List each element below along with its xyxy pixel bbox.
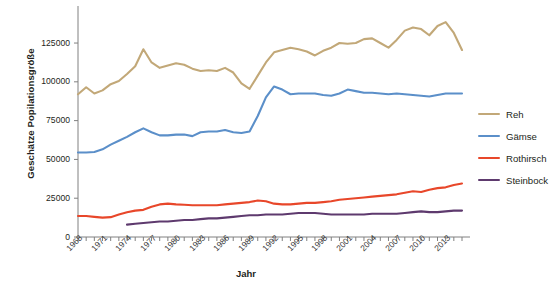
y-axis-tick-label: 100000 [12, 76, 70, 86]
chart-legend: RehGämseRothirschSteinbock [478, 103, 554, 191]
legend-item-gämse[interactable]: Gämse [478, 125, 554, 147]
legend-swatch-icon [478, 179, 500, 182]
legend-item-steinbock[interactable]: Steinbock [478, 169, 554, 191]
chart-container: Geschätze Popilationsgröße 0250005000075… [0, 0, 558, 292]
plot-area [0, 0, 558, 292]
legend-swatch-icon [478, 157, 500, 160]
legend-swatch-icon [478, 113, 500, 116]
legend-item-label: Rothirsch [506, 153, 547, 164]
series-line-reh [78, 22, 462, 94]
y-axis-tick-label: 25000 [12, 193, 70, 203]
legend-swatch-icon [478, 135, 500, 138]
legend-item-rothirsch[interactable]: Rothirsch [478, 147, 554, 169]
series-line-steinbock [127, 211, 462, 225]
legend-item-label: Reh [506, 109, 524, 120]
y-axis-tick-label: 75000 [12, 115, 70, 125]
y-axis-tick-label: 125000 [12, 38, 70, 48]
figure-caption [6, 283, 476, 290]
series-line-gämse [78, 86, 462, 152]
y-axis-tick-label: 0 [12, 232, 70, 242]
legend-item-label: Gämse [506, 131, 537, 142]
y-axis-tick-label: 50000 [12, 154, 70, 164]
legend-item-label: Steinbock [506, 175, 548, 186]
x-axis-title: Jahr [236, 268, 256, 279]
legend-item-reh[interactable]: Reh [478, 103, 554, 125]
